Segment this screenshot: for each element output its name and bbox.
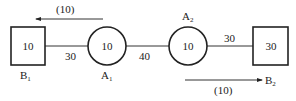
node-b1-label: B1: [20, 70, 31, 85]
node-b2-label: B2: [265, 75, 276, 90]
node-a2-value: 10: [173, 41, 203, 52]
flow-top-label: (10): [56, 4, 74, 15]
node-b1-value: 10: [13, 41, 43, 52]
node-a1-label: A1: [101, 70, 112, 85]
edge-b1-a1-weight: 30: [65, 51, 76, 62]
edge-a2-b2-weight: 30: [224, 33, 235, 44]
edge-a1-a2-weight: 40: [139, 51, 150, 62]
node-a2-label: A2: [182, 11, 193, 26]
flow-bottom-label: (10): [214, 85, 232, 96]
node-b2-value: 30: [256, 41, 286, 52]
node-a1-value: 10: [92, 41, 122, 52]
